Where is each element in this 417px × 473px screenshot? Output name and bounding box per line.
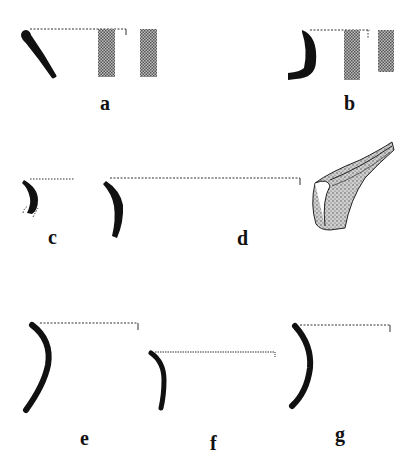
label-f: f bbox=[210, 432, 217, 455]
label-b: b bbox=[344, 92, 355, 115]
sherd-d-perspective-drawing bbox=[313, 142, 394, 230]
label-d: d bbox=[237, 227, 248, 250]
section-bar bbox=[98, 29, 115, 77]
sherd-b bbox=[288, 30, 394, 80]
label-c: c bbox=[48, 226, 57, 249]
section-bar bbox=[140, 29, 157, 77]
sherd-a bbox=[23, 29, 157, 77]
sherd-d bbox=[103, 142, 394, 238]
sherd-g bbox=[292, 325, 390, 406]
section-bar bbox=[378, 30, 394, 72]
section-bar bbox=[344, 30, 360, 80]
label-g: g bbox=[335, 423, 345, 446]
sherd-c bbox=[22, 179, 74, 217]
pottery-figure bbox=[0, 0, 417, 473]
label-e: e bbox=[80, 427, 89, 450]
sherd-e bbox=[26, 323, 138, 410]
label-a: a bbox=[100, 92, 110, 115]
sherd-f bbox=[151, 352, 275, 408]
